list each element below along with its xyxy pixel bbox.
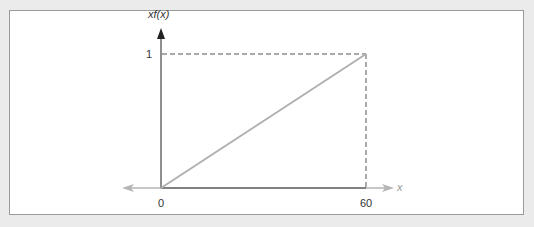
y-tick-1: 1	[146, 48, 152, 60]
data-line	[161, 54, 366, 188]
y-axis-arrow-icon	[157, 28, 165, 39]
x-tick-60: 60	[360, 197, 372, 209]
y-axis-label: xf(x)	[147, 8, 170, 20]
diagram: xf(x) 1 0 60 x	[0, 0, 534, 227]
x-axis-label: x	[396, 181, 403, 193]
x-tick-0: 0	[158, 197, 164, 209]
